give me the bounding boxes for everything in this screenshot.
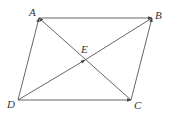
label-e: E [80,43,88,55]
vector-ca [39,18,131,100]
label-c: C [134,99,142,111]
vector-cb [131,18,152,100]
vector-de [18,60,85,100]
label-b: B [155,9,162,21]
vector-da [18,18,39,100]
vector-lines [18,18,152,100]
label-d: D [6,98,15,110]
label-a: A [28,6,36,18]
segment-eb [85,18,152,60]
parallelogram-diagram: A B C D E [0,0,169,117]
